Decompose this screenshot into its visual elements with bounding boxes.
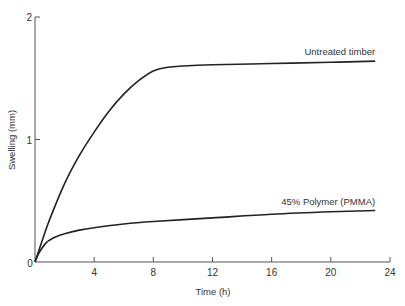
chart: 04812162024 12 Untreated timber45% Polym… [0, 0, 405, 306]
x-tick-label: 20 [325, 267, 337, 278]
y-tick-label: 2 [26, 12, 32, 23]
series-line-polymer-pmma [35, 211, 375, 262]
y-axis-label: Swelling (mm) [6, 110, 17, 170]
x-tick-label: 8 [151, 267, 157, 278]
x-tick-label: 16 [266, 267, 278, 278]
x-tick-label: 24 [384, 267, 396, 278]
series-label-polymer-pmma: 45% Polymer (PMMA) [281, 196, 375, 207]
y-axis: 12 [26, 12, 40, 262]
x-tick-label: 4 [91, 267, 97, 278]
y-tick-label: 1 [26, 135, 32, 146]
series-line-untreated-timber [35, 61, 375, 262]
x-tick-label: 12 [207, 267, 219, 278]
x-axis-label: Time (h) [195, 286, 230, 297]
x-axis: 04812162024 [27, 257, 396, 278]
plot-area [35, 61, 375, 262]
series-label-untreated-timber: Untreated timber [304, 46, 375, 57]
x-tick-label: 0 [27, 258, 33, 269]
